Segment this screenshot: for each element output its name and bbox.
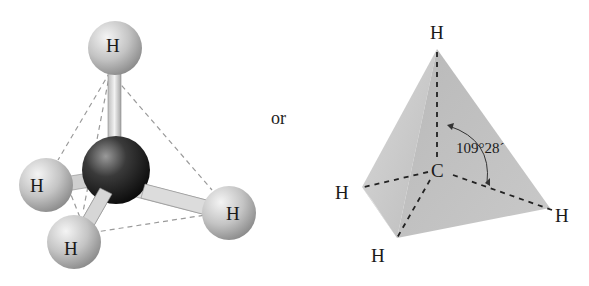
vertex-label-h-bottom: H bbox=[371, 245, 385, 266]
hydrogen-atom-left bbox=[19, 158, 73, 212]
methane-diagram: H H H H H H H H C 109°28´ bbox=[0, 0, 589, 286]
bond-angle-label: 109°28´ bbox=[456, 140, 505, 156]
carbon-atom bbox=[82, 136, 150, 204]
tetrahedron-model: H H H H C 109°28´ bbox=[335, 22, 569, 266]
atom-label-h-top: H bbox=[106, 35, 120, 56]
vertex-label-h-right: H bbox=[555, 205, 569, 226]
center-label-c: C bbox=[431, 160, 444, 181]
vertex-label-h-top: H bbox=[430, 22, 444, 43]
atom-label-h-bottom-left: H bbox=[64, 238, 78, 259]
connector-text: or bbox=[271, 108, 286, 129]
vertex-label-h-left: H bbox=[335, 182, 349, 203]
ball-and-stick-model: H H H H bbox=[19, 21, 256, 269]
atom-label-h-right: H bbox=[226, 203, 240, 224]
atom-label-h-left: H bbox=[30, 175, 44, 196]
